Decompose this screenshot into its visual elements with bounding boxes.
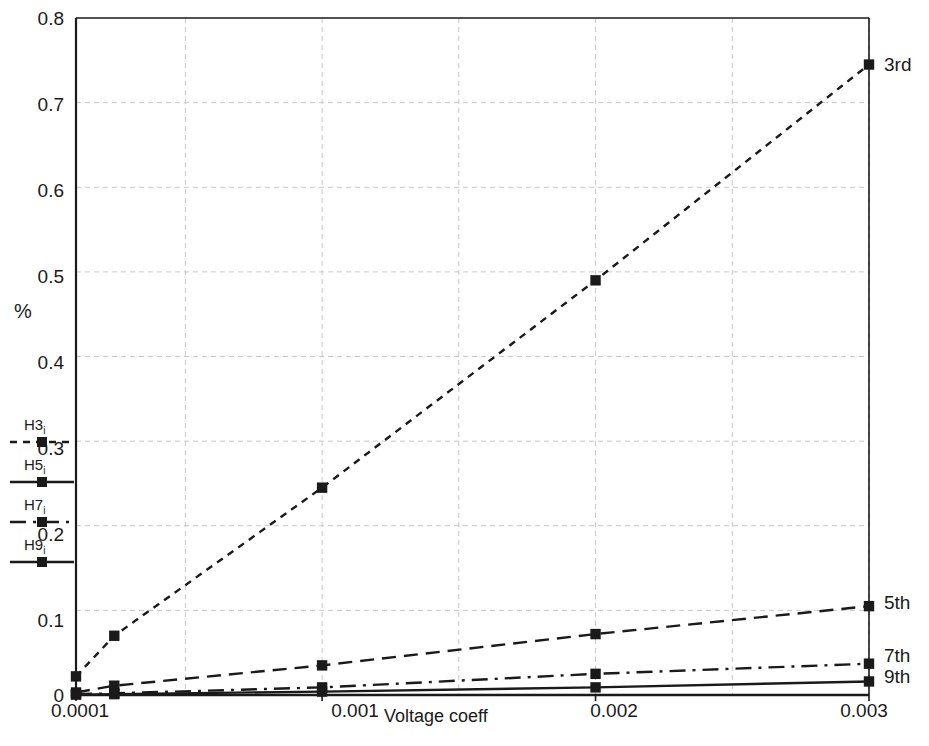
legend-marker [37, 477, 47, 487]
series-end-label: 7th [884, 645, 910, 667]
series-end-label: 5th [884, 592, 910, 614]
y-axis-title: % [14, 300, 32, 323]
legend-line-sample [8, 555, 76, 569]
series-marker-h3i [71, 671, 81, 681]
plot-area [0, 0, 929, 746]
legend-label-main: H7 [24, 496, 43, 513]
legend-line-sample [8, 435, 76, 449]
legend-label-main: H3 [24, 416, 43, 433]
legend-label-main: H5 [24, 456, 43, 473]
legend-marker [37, 437, 47, 447]
legend-marker [37, 557, 47, 567]
y-tick-label: 0.8 [8, 8, 64, 30]
series-marker-h5i [590, 629, 600, 639]
series-marker-h3i [317, 482, 327, 492]
x-tick-label: 0.0001 [25, 700, 135, 722]
series-marker-h9i [71, 689, 81, 699]
legend-item-label: H7i [24, 496, 45, 516]
legend-item-h5: H5i [8, 456, 84, 496]
series-marker-h5i [317, 660, 327, 670]
series-marker-h7i [864, 658, 874, 668]
series-marker-h5i [864, 601, 874, 611]
y-tick-label: 0.4 [8, 352, 64, 374]
series-marker-h3i [590, 275, 600, 285]
series-marker-h7i [590, 669, 600, 679]
series-marker-h9i [317, 686, 327, 696]
legend-item-h7: H7i [8, 496, 84, 536]
y-tick-label: 0.5 [8, 266, 64, 288]
series-marker-h9i [590, 682, 600, 692]
x-axis-title: Voltage coeff [384, 706, 488, 727]
legend-line-sample [8, 515, 76, 529]
legend-item-h3: H3i [8, 416, 84, 456]
series-line-h3i [76, 65, 869, 677]
legend-item-h9: H9i [8, 536, 84, 576]
series-marker-h9i [864, 676, 874, 686]
x-tick-label: 0.002 [559, 700, 669, 722]
series-line-h9i [76, 681, 869, 694]
series-end-label: 9th [884, 666, 910, 688]
legend-item-label: H9i [24, 536, 45, 556]
series-marker-h3i [109, 631, 119, 641]
chart-legend: H3iH5iH7iH9i [8, 416, 84, 576]
legend-line-sample [8, 475, 76, 489]
series-marker-h9i [109, 689, 119, 699]
series-end-label: 3rd [884, 54, 911, 76]
y-tick-label: 0.6 [8, 180, 64, 202]
legend-label-main: H9 [24, 536, 43, 553]
legend-item-label: H3i [24, 416, 45, 436]
y-tick-label: 0.7 [8, 94, 64, 116]
legend-marker [37, 517, 47, 527]
x-tick-label: 0.003 [809, 700, 919, 722]
series-marker-h3i [864, 59, 874, 69]
harmonic-distortion-line-chart: 0.80.70.60.50.40.30.20.10 0.00010.0010.0… [0, 0, 929, 746]
legend-item-label: H5i [24, 456, 45, 476]
y-tick-label: 0.1 [8, 610, 64, 632]
